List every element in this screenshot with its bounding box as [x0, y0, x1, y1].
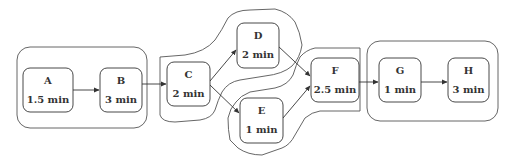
node-duration: 2.5 min	[314, 84, 357, 95]
node-name: H	[464, 65, 473, 76]
node-name: D	[254, 30, 263, 41]
node-duration: 3 min	[452, 84, 485, 95]
node-duration: 2 min	[242, 49, 275, 60]
node-name: A	[43, 75, 52, 86]
node-f: F2.5 min	[311, 58, 359, 102]
process-flow-diagram: A1.5 minB3 minC2 minD2 minE1 minF2.5 min…	[0, 0, 518, 161]
node-name: F	[331, 65, 338, 76]
node-a: A1.5 min	[23, 68, 73, 112]
node-h: H3 min	[448, 58, 489, 102]
edge-c-d	[210, 50, 236, 81]
node-e: E1 min	[240, 98, 283, 143]
node-duration: 2 min	[172, 88, 205, 99]
node-name: G	[396, 65, 405, 76]
node-name: C	[185, 69, 193, 80]
node-g: G1 min	[379, 58, 421, 102]
node-duration: 3 min	[105, 94, 138, 105]
node-duration: 1 min	[245, 124, 278, 135]
node-duration: 1.5 min	[27, 94, 70, 105]
edge-e-f	[283, 86, 310, 118]
node-duration: 1 min	[384, 84, 417, 95]
node-b: B3 min	[100, 68, 142, 112]
edge-c-e	[210, 85, 239, 113]
node-name: E	[258, 105, 266, 116]
node-name: B	[117, 75, 125, 86]
node-c: C2 min	[167, 62, 210, 106]
node-d: D2 min	[237, 23, 279, 68]
